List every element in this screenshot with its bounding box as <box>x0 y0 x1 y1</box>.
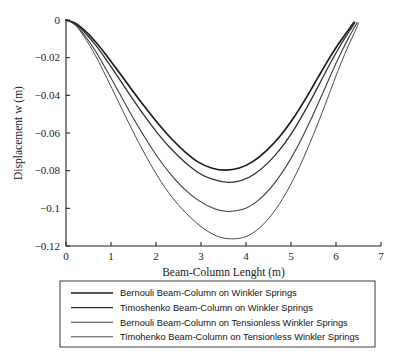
x-tick-label: 6 <box>333 250 339 262</box>
y-tick-label: −0.1 <box>40 202 60 214</box>
x-tick-label: 2 <box>153 250 159 262</box>
legend-label: Bernouli Beam-Column on Winkler Springs <box>120 288 297 298</box>
x-tick-label: 7 <box>378 250 384 262</box>
legend-label: Timoshenko Beam-Column on Winkler Spring… <box>120 303 313 313</box>
x-tick-label: 0 <box>63 250 69 262</box>
y-tick-label: −0.02 <box>35 51 60 63</box>
y-tick-label: −0.12 <box>35 240 60 252</box>
series-curve-1 <box>66 20 354 170</box>
series-curve-4 <box>66 20 359 239</box>
axes <box>66 20 381 246</box>
y-tick-label: 0 <box>55 14 61 26</box>
x-axis-title: Beam-Column Lenght (m) <box>162 266 285 279</box>
y-tick-label: −0.04 <box>35 89 61 101</box>
x-tick-label: 5 <box>288 250 294 262</box>
x-tick-label: 3 <box>198 250 204 262</box>
axis-labels: 0−0.02−0.04−0.06−0.08−0.1−0.1201234567Be… <box>12 14 384 279</box>
figure-container: 0−0.02−0.04−0.06−0.08−0.1−0.1201234567Be… <box>0 0 397 362</box>
series-curve-3 <box>66 20 357 212</box>
chart-legend: Bernouli Beam-Column on Winkler SpringsT… <box>60 281 375 347</box>
plot-area <box>66 20 359 239</box>
y-tick-label: −0.06 <box>35 127 61 139</box>
y-axis-title: Displacement w (m) <box>12 86 25 180</box>
legend-label: Timohenko Beam-Column on Tensionless Win… <box>120 332 360 342</box>
x-tick-label: 1 <box>108 250 114 262</box>
x-tick-label: 4 <box>243 250 249 262</box>
displacement-chart: 0−0.02−0.04−0.06−0.08−0.1−0.1201234567Be… <box>0 0 397 362</box>
legend-label: Bernouli Beam-Column on Tensionless Wink… <box>120 318 348 328</box>
series-curve-2 <box>66 20 355 182</box>
y-tick-label: −0.08 <box>35 164 61 176</box>
axis-spines <box>66 20 381 246</box>
